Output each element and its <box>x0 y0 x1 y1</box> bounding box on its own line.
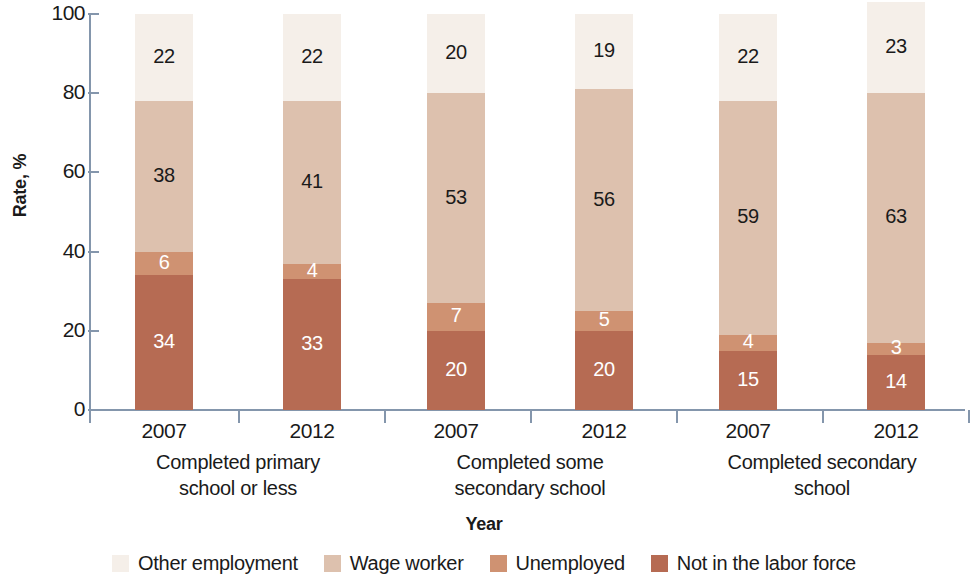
x-axis-title: Year <box>0 514 968 535</box>
bar-segment-value: 56 <box>593 188 614 211</box>
x-group-label-line2: secondary school <box>380 476 680 502</box>
x-group-label-line1: Completed secondary <box>672 450 972 476</box>
bar-segment[interactable]: 34 <box>135 275 193 410</box>
bar-segment[interactable]: 5 <box>575 311 633 331</box>
bar-segment-value: 15 <box>737 368 758 391</box>
x-axis-tick <box>822 410 824 423</box>
bar-segment-value: 6 <box>159 251 170 274</box>
bar[interactable]: 1956520 <box>575 14 633 410</box>
bar-segment-value: 59 <box>737 205 758 228</box>
bar-segment-value: 23 <box>885 35 906 58</box>
x-group-label-line2: school <box>672 476 972 502</box>
bar-segment[interactable]: 19 <box>575 14 633 89</box>
y-tick-label: 60 <box>15 160 85 181</box>
legend-item[interactable]: Unemployed <box>490 552 625 575</box>
legend-label: Other employment <box>138 552 298 575</box>
bar-segment-value: 20 <box>445 41 466 64</box>
y-tick-label: 20 <box>15 319 85 340</box>
bar-segment-value: 5 <box>599 308 610 331</box>
y-tick-label: 40 <box>15 240 85 261</box>
bar-segment[interactable]: 33 <box>283 279 341 410</box>
bar-segment-value: 38 <box>153 164 174 187</box>
legend-item[interactable]: Other employment <box>112 552 298 575</box>
bar-segment[interactable]: 59 <box>719 101 777 335</box>
bar-segment[interactable]: 14 <box>867 355 925 410</box>
bar-segment[interactable]: 20 <box>427 331 485 410</box>
bar-segment-value: 22 <box>301 45 322 68</box>
bar-segment-value: 53 <box>445 186 466 209</box>
x-year-label: 2007 <box>688 419 808 443</box>
bar-segment[interactable]: 6 <box>135 252 193 276</box>
bar-segment-value: 34 <box>153 330 174 353</box>
x-axis-tick <box>384 410 386 423</box>
bar-segment[interactable]: 63 <box>867 93 925 342</box>
bar-segment-value: 33 <box>301 332 322 355</box>
bar-segment[interactable]: 56 <box>575 89 633 311</box>
y-tick-label: 80 <box>15 81 85 102</box>
bar-segment[interactable]: 3 <box>867 343 925 355</box>
bar-segment[interactable]: 22 <box>135 14 193 101</box>
legend-label: Wage worker <box>350 552 464 575</box>
y-tick-label: 0 <box>15 398 85 419</box>
x-axis-tick <box>968 410 970 423</box>
x-axis-tick <box>530 410 532 423</box>
x-group-label: Completed secondaryschool <box>672 450 972 501</box>
legend-swatch-icon <box>324 555 341 572</box>
bar-segment[interactable]: 53 <box>427 93 485 303</box>
bar-segment-value: 19 <box>593 39 614 62</box>
bar-segment[interactable]: 4 <box>719 335 777 351</box>
bar-segment-value: 63 <box>885 205 906 228</box>
x-group-label-line1: Completed primary <box>88 450 388 476</box>
bar-segment[interactable]: 38 <box>135 101 193 251</box>
x-axis-tick <box>676 410 678 423</box>
x-year-label: 2012 <box>544 419 664 443</box>
bar-segment-value: 22 <box>153 45 174 68</box>
bar-segment[interactable]: 4 <box>283 264 341 280</box>
legend-item[interactable]: Not in the labor force <box>651 552 856 575</box>
bar-segment[interactable]: 7 <box>427 303 485 331</box>
bar-segment[interactable]: 20 <box>427 14 485 93</box>
x-year-label: 2012 <box>252 419 372 443</box>
bar-segment-value: 7 <box>451 304 462 327</box>
bar[interactable]: 2363314 <box>867 2 925 410</box>
y-tick-label: 100 <box>15 2 85 23</box>
x-axis-tick <box>89 410 91 423</box>
legend-label: Unemployed <box>516 552 625 575</box>
bar-segment[interactable]: 22 <box>719 14 777 101</box>
x-group-label: Completed somesecondary school <box>380 450 680 501</box>
bar-segment-value: 41 <box>301 170 322 193</box>
x-group-label-line1: Completed some <box>380 450 680 476</box>
bar-segment-value: 14 <box>885 370 906 393</box>
plot-area: 2238634224143320537201956520225941523633… <box>89 14 968 410</box>
bar-segment-value: 20 <box>593 358 614 381</box>
legend-label: Not in the labor force <box>677 552 856 575</box>
bar[interactable]: 2053720 <box>427 14 485 410</box>
bar[interactable]: 2241433 <box>283 14 341 410</box>
x-year-label: 2007 <box>104 419 224 443</box>
legend-swatch-icon <box>112 555 129 572</box>
y-axis-title: Rate, % <box>10 126 31 246</box>
bar-segment[interactable]: 20 <box>575 331 633 410</box>
bar[interactable]: 2259415 <box>719 14 777 410</box>
bar-segment-value: 22 <box>737 45 758 68</box>
bar-segment[interactable]: 23 <box>867 2 925 93</box>
bar-segment[interactable]: 41 <box>283 101 341 263</box>
x-year-label: 2007 <box>396 419 516 443</box>
x-year-label: 2012 <box>836 419 956 443</box>
bar-segment[interactable]: 15 <box>719 351 777 410</box>
legend-item[interactable]: Wage worker <box>324 552 464 575</box>
x-group-label: Completed primaryschool or less <box>88 450 388 501</box>
bar[interactable]: 2238634 <box>135 14 193 410</box>
bar-segment[interactable]: 22 <box>283 14 341 101</box>
x-axis-tick <box>238 410 240 423</box>
chart-legend: Other employmentWage workerUnemployedNot… <box>0 552 968 575</box>
legend-swatch-icon <box>651 555 668 572</box>
x-group-label-line2: school or less <box>88 476 388 502</box>
legend-swatch-icon <box>490 555 507 572</box>
bar-segment-value: 20 <box>445 358 466 381</box>
